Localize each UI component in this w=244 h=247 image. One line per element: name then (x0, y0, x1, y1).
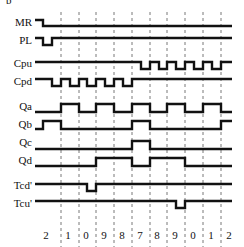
count-label: 1 (62, 230, 74, 241)
waveform-cpu (35, 62, 232, 69)
count-label: 0 (187, 230, 199, 241)
signal-label-cpu: Cpu (0, 58, 32, 69)
signal-label-qc: Qc (0, 137, 32, 148)
signal-label-qd: Qd (0, 155, 32, 166)
waveform-qd (35, 158, 232, 166)
signal-label-mr: MR (0, 17, 32, 28)
waveform-tcd (35, 184, 232, 191)
count-label: 7 (134, 230, 146, 241)
waveform-qa (35, 104, 232, 112)
count-label: 8 (151, 230, 163, 241)
signal-label-tcu: Tcu' (0, 198, 32, 209)
count-label: 2 (40, 230, 52, 241)
signal-label-qa: Qa (0, 101, 32, 112)
count-label: 2 (223, 230, 235, 241)
signal-label-pl: PL (0, 35, 32, 46)
count-label: 1 (205, 230, 217, 241)
signal-label-tcd: Tcd' (0, 180, 32, 191)
count-label: 9 (98, 230, 110, 241)
waveform-qc (35, 141, 232, 149)
signal-label-qb: Qb (0, 119, 32, 130)
signal-label-cpd: Cpd (0, 76, 32, 87)
count-label: 9 (169, 230, 181, 241)
timing-diagram (0, 0, 244, 247)
count-label: 8 (116, 230, 128, 241)
waveform-pl (35, 38, 232, 45)
waveform-tcu (35, 201, 232, 208)
waveforms (35, 20, 232, 208)
waveform-qb (35, 121, 232, 129)
waveform-cpd (35, 79, 232, 86)
count-label: 0 (80, 230, 92, 241)
waveform-canvas (0, 0, 244, 247)
waveform-mr (35, 20, 232, 26)
figure-corner-mark: b (6, 0, 12, 6)
